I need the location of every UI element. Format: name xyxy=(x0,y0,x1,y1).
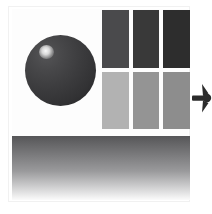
swatch-cell-r2c1 xyxy=(102,72,129,129)
sphere-shape xyxy=(25,35,96,106)
arrow-right-icon xyxy=(192,82,212,114)
swatch-cell-r1c2 xyxy=(133,10,160,68)
composition-canvas xyxy=(0,0,212,214)
sphere-highlight xyxy=(39,45,54,59)
swatch-grid xyxy=(102,10,190,133)
swatch-cell-r1c3 xyxy=(163,10,190,68)
gradient-panel xyxy=(12,136,190,200)
swatch-cell-r2c3 xyxy=(163,72,190,129)
swatch-cell-r1c1 xyxy=(102,10,129,68)
swatch-cell-r2c2 xyxy=(133,72,160,129)
